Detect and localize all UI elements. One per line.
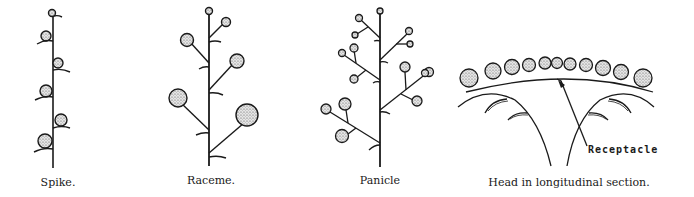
panicle-illustration (321, 8, 434, 167)
caption-head-section: Head in longitudinal section. (488, 176, 649, 189)
caption-raceme: Raceme. (187, 174, 235, 187)
spike-illustration (34, 10, 70, 169)
receptacle-label: Receptacle (588, 144, 658, 155)
inflorescence-diagram: Receptacle Spike. Raceme. Panicle Head i… (0, 0, 694, 197)
caption-panicle: Panicle (360, 174, 400, 187)
raceme-illustration (169, 8, 258, 167)
caption-spike: Spike. (41, 176, 76, 189)
diagram-drawing (0, 0, 694, 197)
